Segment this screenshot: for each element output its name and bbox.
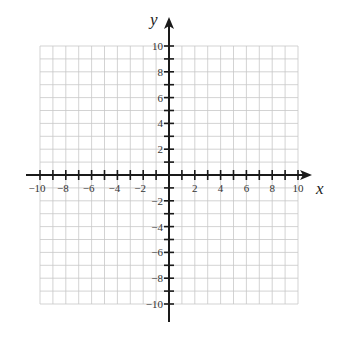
x-tick-label: −8 (57, 182, 69, 194)
x-tick-label: 10 (293, 182, 305, 194)
y-tick-label: −6 (151, 246, 163, 258)
y-tick-label: 6 (158, 92, 164, 104)
x-tick-label: 8 (269, 182, 275, 194)
axes (26, 17, 312, 322)
y-tick-label: −4 (151, 221, 163, 233)
x-tick-label: −6 (83, 182, 95, 194)
x-tick-label: 6 (244, 182, 250, 194)
y-tick-label: −10 (146, 298, 164, 310)
x-tick-label: −10 (28, 182, 46, 194)
x-axis-label: x (315, 179, 324, 198)
x-tick-label: 2 (192, 182, 198, 194)
x-tick-label: 4 (218, 182, 224, 194)
y-tick-label: 10 (152, 40, 164, 52)
y-axis-label: y (148, 10, 158, 29)
y-tick-label: −8 (151, 272, 163, 284)
x-tick-label: −2 (134, 182, 146, 194)
x-tick-label: −4 (109, 182, 121, 194)
y-tick-label: 4 (158, 117, 164, 129)
y-tick-label: 2 (158, 143, 164, 155)
y-tick-label: 8 (158, 66, 164, 78)
coordinate-plane: −10−8−6−4−2246810108642−2−4−6−8−10 x y (0, 0, 340, 338)
y-tick-label: −2 (151, 195, 163, 207)
